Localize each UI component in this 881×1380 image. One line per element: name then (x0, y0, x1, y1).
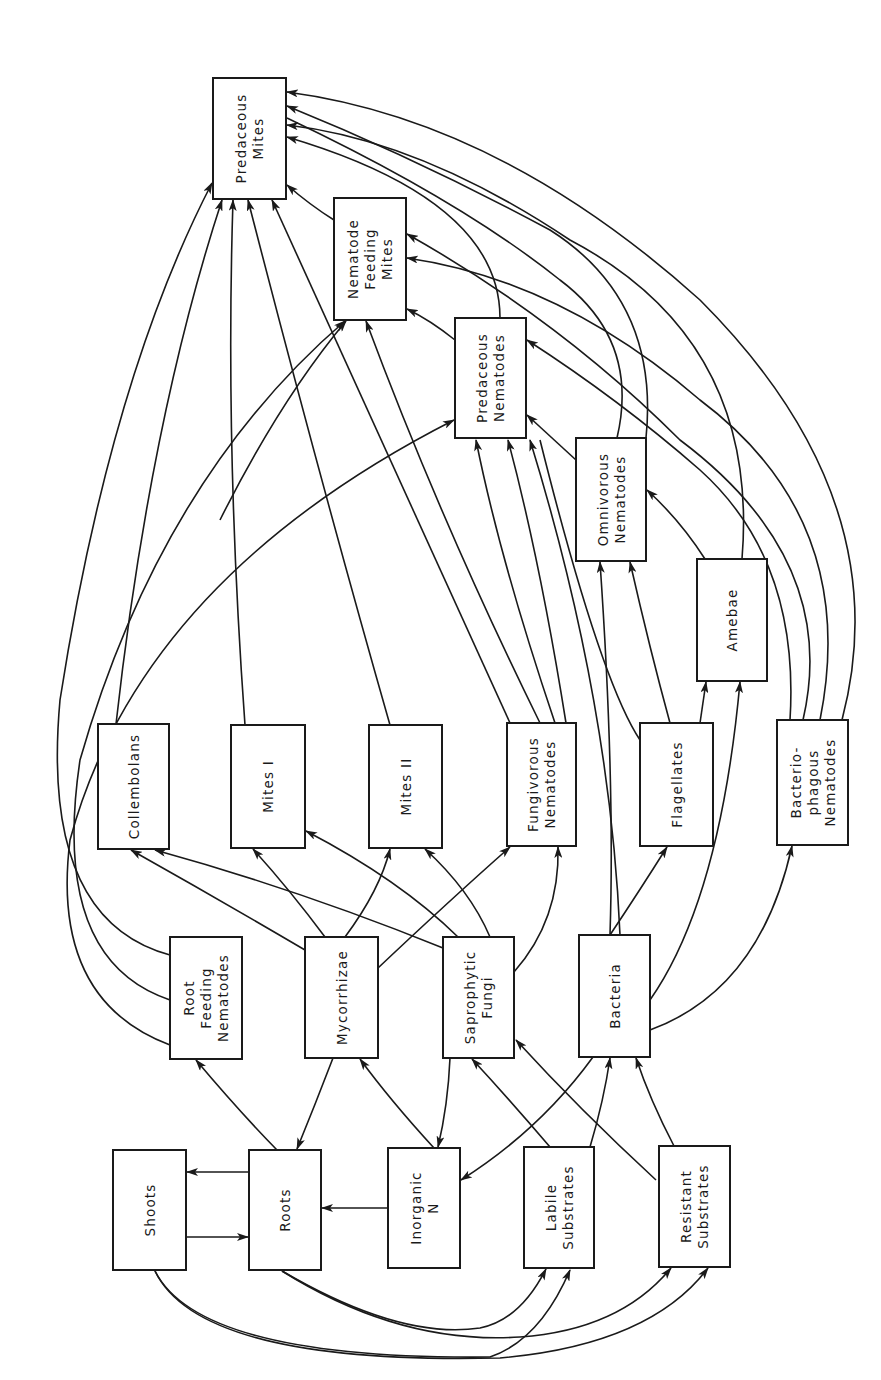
node-saprophytic-fungi: SaprophyticFungi (443, 937, 514, 1058)
node-omnivorous-nematodes: OmnivorousNematodes (576, 438, 646, 561)
node-label-line: Substrates (560, 1165, 576, 1249)
node-bacteria: Bacteria (579, 935, 650, 1057)
node-label: FungivorousNematodes (525, 737, 558, 832)
node-collembolans: Collembolans (98, 724, 169, 849)
node-label: Bacteria (607, 963, 623, 1029)
node-label: Mites I (260, 760, 276, 813)
node-label-line: Predaceous (233, 94, 249, 184)
edge-mycorrhizae-to-mites-i (253, 849, 325, 937)
node-mites-ii: Mites II (369, 725, 442, 848)
edge-bacteria-to-flagellates (610, 847, 667, 935)
node-label-line: Feeding (198, 967, 214, 1028)
node-label-line: Labile (543, 1184, 559, 1231)
node-label-line: Mites (250, 117, 266, 159)
node-resistant-substrates: ResistantSubstrates (659, 1146, 730, 1267)
node-label-line: Bacterio- (788, 746, 804, 818)
node-label-line: Omnivorous (595, 453, 611, 546)
edge-saprophytic-fungi-to-fungivorous-nematodes (514, 847, 558, 972)
edge-shoots-to-resistant-substrates (155, 1268, 708, 1358)
node-label-line: Bacteria (607, 963, 623, 1029)
node-label-line: Feeding (362, 228, 378, 289)
node-label: Flagellates (669, 741, 685, 827)
node-predaceous-mites: PredaceousMites (213, 78, 286, 199)
soil-food-web-diagram: PredaceousMitesNematodeFeedingMitesPreda… (0, 0, 881, 1380)
node-roots: Roots (249, 1150, 321, 1270)
node-label: Mycorrhizae (334, 950, 350, 1045)
node-inorganic-n: InorganicN (388, 1148, 460, 1268)
node-label: PredaceousNematodes (474, 333, 507, 423)
node-predaceous-nematodes: PredaceousNematodes (455, 318, 526, 438)
node-label-line: Amebae (724, 588, 740, 651)
node-label: Shoots (142, 1183, 158, 1236)
node-label-line: Mycorrhizae (334, 950, 350, 1045)
node-label-line: Mites (379, 238, 395, 280)
node-label-line: Shoots (142, 1183, 158, 1236)
edge-resistant-substrates-to-bacteria (636, 1058, 674, 1146)
edge-bacteriophagous-nematodes-to-predaceous-mites (287, 92, 855, 720)
edge-mites-i-to-predaceous-mites (231, 200, 245, 725)
node-label: ResistantSubstrates (678, 1164, 711, 1248)
node-root-feeding-nematodes: RootFeedingNematodes (170, 937, 242, 1059)
edge-mycorrhizae-to-collembolans (131, 850, 305, 950)
node-label-line: Collembolans (126, 734, 142, 840)
node-label-line: Roots (277, 1188, 293, 1232)
node-label-line: phagous (805, 749, 821, 815)
edge-saprophytic-fungi-to-collembolans (155, 850, 443, 948)
edge-nematode-feeding-mites-to-predaceous-mites (287, 185, 334, 220)
edge-roots-to-root-feeding-nematodes (196, 1060, 277, 1150)
node-amebae: Amebae (697, 559, 767, 681)
edge-fungivorous-nematodes-to-predaceous-nematodes-b (508, 440, 566, 723)
node-label-line: Inorganic (408, 1171, 424, 1244)
edge-flagellates-to-omnivorous-nematodes (630, 562, 670, 723)
node-label-line: Nematodes (612, 455, 628, 543)
node-label: Collembolans (126, 734, 142, 840)
edge-mycorrhizae-to-nematode-feeding-mites (220, 321, 346, 520)
node-label-line: Resistant (678, 1170, 694, 1243)
node-shoots: Shoots (113, 1150, 186, 1270)
node-label: OmnivorousNematodes (595, 453, 628, 546)
node-fungivorous-nematodes: FungivorousNematodes (507, 723, 576, 846)
node-bacteriophagous-nematodes: Bacterio-phagousNematodes (777, 720, 848, 845)
node-label-line: Saprophytic (462, 951, 478, 1045)
node-label-line: Flagellates (669, 741, 685, 827)
node-label-line: Fungivorous (525, 737, 541, 832)
node-label-line: Nematode (345, 219, 361, 299)
node-label-line: Fungi (479, 976, 495, 1018)
node-label-line: Mites II (398, 758, 414, 816)
node-label-line: Substrates (695, 1164, 711, 1248)
node-nematode-feeding-mites: NematodeFeedingMites (334, 198, 406, 320)
node-label-line: Nematodes (491, 334, 507, 422)
edge-labile-substrates-to-saprophytic-fungi (472, 1059, 550, 1147)
node-mycorrhizae: Mycorrhizae (305, 937, 378, 1058)
edge-roots-to-labile-substrates (282, 1269, 546, 1330)
edge-saprophytic-fungi-to-inorganic-n (438, 1058, 450, 1147)
node-label: Amebae (724, 588, 740, 651)
node-mites-i: Mites I (231, 725, 305, 848)
edge-amebae-to-omnivorous-nematodes (647, 490, 705, 559)
edge-saprophytic-fungi-to-mites-ii (425, 849, 490, 937)
node-label-line: Root (181, 980, 197, 1015)
edge-root-feeding-nematodes-to-nematode-feeding-mites (74, 321, 345, 1000)
edge-predaceous-nematodes-to-nematode-feeding-mites (407, 309, 455, 340)
node-label: Bacterio-phagousNematodes (788, 738, 838, 826)
node-label-line: Nematodes (822, 738, 838, 826)
node-label-line: Mites I (260, 760, 276, 813)
edge-roots-to-resistant-substrates (282, 1268, 671, 1338)
node-label-line: Nematodes (542, 740, 558, 828)
edge-flagellates-to-amebae (700, 682, 706, 723)
node-labile-substrates: LabileSubstrates (524, 1147, 594, 1268)
node-label-line: Nematodes (215, 954, 231, 1042)
node-flagellates: Flagellates (640, 723, 713, 846)
edge-shoots-to-labile-substrates (155, 1270, 570, 1357)
node-label: Roots (277, 1188, 293, 1232)
node-label: Mites II (398, 758, 414, 816)
nodes-layer: PredaceousMitesNematodeFeedingMitesPreda… (98, 78, 848, 1270)
node-label-line: Predaceous (474, 333, 490, 423)
edge-mycorrhizae-to-roots (297, 1058, 333, 1149)
node-label-line: N (425, 1202, 441, 1213)
edge-inorganic-n-to-mycorrhizae (360, 1059, 434, 1148)
edge-bacteria-to-bacteriophagous-nematodes (650, 846, 792, 1030)
